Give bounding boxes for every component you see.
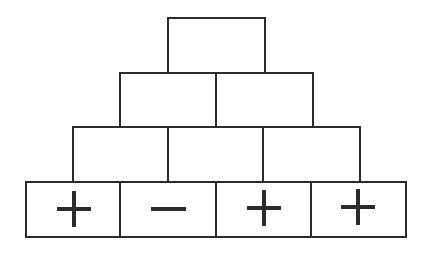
plus-icon-vertical (356, 189, 360, 225)
pyramid-cell-r2-c2[interactable] (215, 72, 314, 129)
pyramid-cell-r4-c3 (215, 181, 313, 238)
pyramid-cell-r4-c1 (25, 181, 122, 238)
plus-icon-vertical (262, 190, 266, 226)
pyramid-cell-r4-c4 (310, 181, 407, 238)
pyramid-cell-r2-c1[interactable] (119, 72, 219, 129)
pyramid-cell-r3-c3[interactable] (262, 126, 361, 183)
pyramid-cell-r3-c1[interactable] (72, 126, 171, 183)
pyramid-cell-r3-c2[interactable] (167, 126, 266, 183)
plus-icon-vertical (72, 191, 76, 227)
pyramid-cell-r1-c1[interactable] (167, 17, 266, 74)
pyramid-cell-r4-c2 (119, 181, 218, 238)
minus-icon (151, 207, 186, 211)
